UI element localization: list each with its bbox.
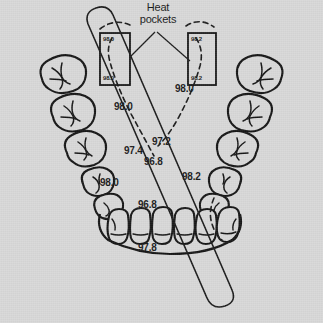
temp-center-97-2: 97.2 bbox=[152, 137, 171, 148]
temp-center-96-8: 96.8 bbox=[144, 157, 163, 168]
callout-line-1: Heat bbox=[128, 2, 188, 14]
left-heat-pocket-top-value: 98.0 bbox=[103, 36, 114, 42]
left-heat-pocket-bottom-value: 98.0 bbox=[103, 75, 114, 81]
temp-right-upper: 98.0 bbox=[175, 84, 194, 95]
temp-left-upper: 98.0 bbox=[114, 102, 133, 113]
dental-arch-thermal-diagram: Heat pockets 98.0 98.0 98.2 98.2 98.0 98… bbox=[0, 0, 323, 323]
right-heat-pocket-bottom-value: 98.2 bbox=[191, 75, 202, 81]
teeth-anterior bbox=[108, 207, 240, 244]
temp-right-98-2: 98.2 bbox=[182, 172, 201, 183]
right-heat-pocket-top-value: 98.2 bbox=[191, 36, 202, 42]
callout-heat-pockets: Heat pockets bbox=[128, 2, 188, 25]
temp-incisal-96-8: 96.8 bbox=[138, 200, 157, 211]
callout-line-2: pockets bbox=[128, 14, 188, 26]
temp-left-98-0: 98.0 bbox=[100, 178, 119, 189]
temp-left-97-4: 97.4 bbox=[124, 146, 143, 157]
callout-leader-lines bbox=[130, 32, 190, 61]
temp-bottom-97-8: 97.8 bbox=[138, 243, 157, 254]
